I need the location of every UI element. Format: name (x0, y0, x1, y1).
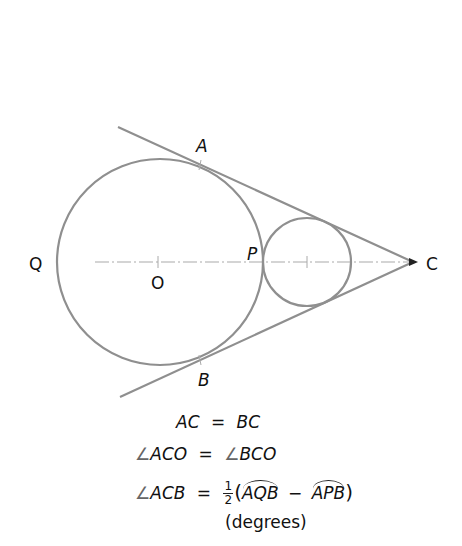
frac-denominator: 2 (223, 494, 233, 507)
degrees-note: (degrees) (225, 514, 307, 531)
arc-apb: APB (312, 485, 346, 502)
eq1-lhs: AC (176, 412, 200, 432)
frac-numerator: 1 (223, 480, 233, 494)
label-point-b: B (198, 372, 210, 389)
minus-sign: − (288, 483, 302, 503)
label-point-o: O (151, 275, 164, 292)
fraction-one-half: 1 2 (223, 480, 233, 507)
eq2-op: = (199, 444, 213, 464)
equation-angle-aco: ∠ACO = ∠BCO (135, 446, 276, 463)
angle-icon: ∠ (224, 444, 239, 464)
eq1-rhs: BC (237, 412, 261, 432)
eq3-lhs: ACB (150, 483, 185, 503)
label-point-a: A (196, 138, 208, 155)
angle-icon: ∠ (135, 444, 150, 464)
eq1-op: = (211, 412, 225, 432)
eq3-op: = (197, 483, 211, 503)
label-point-q: Q (29, 256, 42, 273)
open-paren: ( (234, 480, 242, 504)
geometry-figure (0, 0, 462, 546)
eq2-lhs: ACO (150, 444, 187, 464)
arc-aqb: AQB (242, 485, 279, 502)
tangent-line-ac (118, 127, 413, 262)
equation-angle-acb: ∠ACB = 1 2 (AQB − APB) (135, 480, 353, 507)
label-point-c: C (426, 256, 438, 273)
apex-arrow-icon (409, 258, 418, 266)
label-point-p: P (247, 246, 257, 263)
angle-icon: ∠ (135, 483, 150, 503)
eq2-rhs: BCO (239, 444, 276, 464)
equation-ac-equals-bc: AC = BC (176, 414, 260, 431)
close-paren: ) (345, 480, 353, 504)
